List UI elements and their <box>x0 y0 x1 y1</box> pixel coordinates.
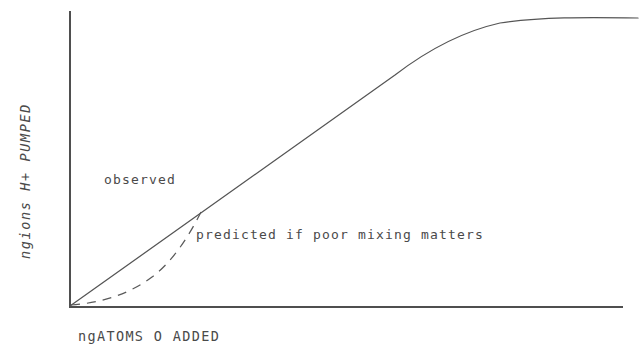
annotation-predicted: predicted if poor mixing matters <box>196 227 484 242</box>
x-axis-label: ngATOMS O ADDED <box>78 328 220 344</box>
series-line-observed <box>70 18 638 306</box>
plot-canvas <box>0 0 641 361</box>
annotation-observed: observed <box>104 172 176 187</box>
chart-figure: ngions H+ PUMPED ngATOMS O ADDED observe… <box>0 0 641 361</box>
